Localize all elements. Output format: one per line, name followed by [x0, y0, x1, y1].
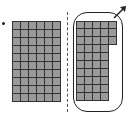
- grid-row: [13, 78, 61, 86]
- grid-cell: [29, 94, 37, 102]
- grid-cell: [101, 29, 109, 37]
- grid-cell: [29, 78, 37, 86]
- grid-cell: [101, 21, 109, 29]
- grid-cell: [45, 30, 53, 38]
- grid-cell: [37, 54, 45, 62]
- grid-cell: [37, 30, 45, 38]
- grid-cell: [85, 77, 93, 85]
- grid-cell: [37, 22, 45, 30]
- grid-row: [76, 77, 117, 85]
- grid-cell: [45, 70, 53, 78]
- grid-cell: [13, 38, 21, 46]
- grid-cell: [85, 61, 93, 69]
- grid-row: [13, 94, 61, 102]
- grid-cell: [101, 61, 109, 69]
- grid-cell: [101, 69, 109, 77]
- grid-cell: [13, 86, 21, 94]
- grid-row: [76, 45, 117, 53]
- grid-cell: [109, 37, 117, 45]
- grid-cell: [53, 22, 61, 30]
- grid-cell: [13, 22, 21, 30]
- grid-cell: [45, 46, 53, 54]
- grid-cell: [45, 22, 53, 30]
- grid-cell: [29, 54, 37, 62]
- grid-cell: [76, 29, 85, 37]
- grid-row: [13, 30, 61, 38]
- dashed-divider: [67, 12, 68, 112]
- grid-cell: [85, 69, 93, 77]
- grid-cell: [45, 54, 53, 62]
- grid-cell: [93, 69, 101, 77]
- grid-cell: [93, 29, 101, 37]
- grid-cell: [21, 30, 29, 38]
- grid-cell: [85, 37, 93, 45]
- grid-cell: [21, 86, 29, 94]
- grid-cell: [13, 54, 21, 62]
- grid-cell: [101, 37, 109, 45]
- grid-row: [76, 61, 117, 69]
- grid-row: [76, 69, 117, 77]
- grid-cell: [45, 94, 53, 102]
- grid-cell: [76, 21, 85, 29]
- right-grid: [76, 21, 117, 101]
- grid-cell: [53, 38, 61, 46]
- grid-cell: [13, 94, 21, 102]
- grid-cell: [93, 61, 101, 69]
- grid-cell: [13, 78, 21, 86]
- grid-cell: [29, 38, 37, 46]
- grid-cell: [53, 62, 61, 70]
- grid-cell: [109, 21, 117, 29]
- grid-cell: [21, 46, 29, 54]
- grid-cell: [29, 70, 37, 78]
- grid-row: [13, 62, 61, 70]
- grid-cell: [21, 94, 29, 102]
- grid-cell: [109, 29, 117, 37]
- grid-cell: [101, 53, 109, 61]
- grid-cell: [45, 78, 53, 86]
- grid-cell: [93, 21, 101, 29]
- grid-row: [76, 29, 117, 37]
- grid-row: [76, 37, 117, 45]
- grid-row: [13, 54, 61, 62]
- grid-cell: [76, 37, 85, 45]
- grid-cell: [37, 78, 45, 86]
- left-grid: [12, 21, 61, 102]
- grid-cell: [76, 77, 85, 85]
- grid-cell: [53, 86, 61, 94]
- grid-row: [13, 22, 61, 30]
- grid-cell: [53, 94, 61, 102]
- grid-row: [13, 38, 61, 46]
- grid-cell: [29, 30, 37, 38]
- grid-cell: [53, 30, 61, 38]
- grid-row: [13, 46, 61, 54]
- grid-cell: [13, 46, 21, 54]
- grid-cell: [93, 85, 101, 93]
- grid-cell: [85, 85, 93, 93]
- grid-cell: [76, 45, 85, 53]
- grid-cell: [37, 38, 45, 46]
- grid-cell: [13, 62, 21, 70]
- grid-cell: [29, 22, 37, 30]
- grid-cell: [21, 38, 29, 46]
- grid-row: [13, 86, 61, 94]
- grid-cell: [101, 85, 109, 93]
- grid-cell: [13, 70, 21, 78]
- grid-cell: [85, 53, 93, 61]
- grid-cell: [85, 21, 93, 29]
- grid-cell: [93, 93, 101, 101]
- grid-cell: [21, 22, 29, 30]
- grid-cell: [76, 61, 85, 69]
- grid-cell: [76, 85, 85, 93]
- grid-cell: [21, 70, 29, 78]
- bullet-marker-icon: [2, 22, 5, 25]
- grid-cell: [101, 45, 109, 53]
- grid-cell: [37, 86, 45, 94]
- grid-cell: [29, 86, 37, 94]
- grid-row: [76, 85, 117, 93]
- grid-cell: [37, 70, 45, 78]
- grid-cell: [37, 94, 45, 102]
- grid-row: [76, 53, 117, 61]
- grid-cell: [53, 54, 61, 62]
- grid-cell: [93, 37, 101, 45]
- grid-cell: [45, 86, 53, 94]
